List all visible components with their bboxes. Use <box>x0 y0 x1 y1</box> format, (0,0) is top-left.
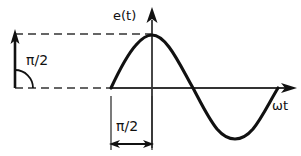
x-axis-label: ωt <box>272 98 288 113</box>
phase-arc-label: π/2 <box>26 52 48 68</box>
y-axis-label: e(t) <box>113 8 136 23</box>
phase-arc <box>15 70 33 88</box>
phase-span-label: π/2 <box>116 118 138 134</box>
sine-wave-phase-figure: e(t) ωt π/2 π/2 <box>0 0 301 156</box>
figure-canvas: e(t) ωt π/2 π/2 <box>0 0 301 156</box>
